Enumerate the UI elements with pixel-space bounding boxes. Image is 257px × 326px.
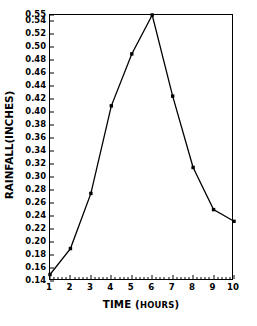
- x-axis-minor-tick: [197, 277, 198, 279]
- y-axis-tick-label: 0.24: [25, 211, 46, 219]
- y-axis-tick-label: 0.44: [25, 81, 46, 89]
- y-axis-tick-label: 0.34: [25, 146, 46, 154]
- x-axis-minor-tick: [176, 277, 177, 279]
- x-axis-tick-labels: 12345678910: [49, 283, 233, 297]
- y-axis-tick-label: 0.30: [25, 172, 46, 180]
- y-axis-tick-mark: [50, 203, 54, 204]
- series-line: [50, 15, 234, 275]
- y-axis-tick-label: 0.50: [25, 42, 46, 50]
- y-axis-tick-label: 0.32: [25, 159, 46, 167]
- x-axis-tick-label: 5: [128, 283, 134, 292]
- x-axis-minor-tick: [156, 277, 157, 279]
- data-point: [191, 166, 194, 169]
- x-axis-minor-tick: [82, 277, 83, 279]
- x-axis-tick-label: 7: [169, 283, 175, 292]
- plot-area: [49, 14, 233, 280]
- y-axis-tick-label: 0.14: [25, 276, 46, 284]
- x-axis-minor-tick: [189, 277, 190, 279]
- y-axis-tick-mark: [50, 60, 54, 61]
- x-axis-minor-tick: [164, 277, 165, 279]
- y-axis-tick-label: 0.16: [25, 263, 46, 271]
- x-axis-title-close: ): [174, 299, 179, 310]
- x-axis-tick-mark: [90, 275, 91, 279]
- y-axis-tick-mark: [50, 177, 54, 178]
- y-axis-tick-mark: [50, 86, 54, 87]
- y-axis-tick-label: 0.52: [25, 29, 46, 37]
- y-axis-tick-label: 0.36: [25, 133, 46, 141]
- x-axis-minor-tick: [99, 277, 100, 279]
- rainfall-line-chart: RAINFALL(INCHES) 0.140.160.180.200.220.2…: [0, 0, 257, 326]
- y-axis-tick-mark: [50, 229, 54, 230]
- y-axis-tick-mark: [50, 47, 54, 48]
- x-axis-minor-tick: [225, 277, 226, 279]
- y-axis-tick-label: 0.28: [25, 185, 46, 193]
- x-axis-minor-tick: [62, 277, 63, 279]
- x-axis-minor-tick: [86, 277, 87, 279]
- x-axis-minor-tick: [139, 277, 140, 279]
- x-axis-minor-tick: [66, 277, 67, 279]
- x-axis-title-unit: HOURS: [140, 300, 174, 310]
- x-axis-minor-tick: [123, 277, 124, 279]
- data-point: [130, 52, 133, 55]
- y-axis-tick-label: 0.18: [25, 250, 46, 258]
- x-axis-tick-mark: [234, 275, 235, 279]
- x-axis-minor-tick: [107, 277, 108, 279]
- y-axis-tick-mark: [50, 190, 54, 191]
- y-axis-tick-mark: [50, 216, 54, 217]
- data-series-rainfall: [50, 15, 234, 281]
- y-axis-tick-label: 0.38: [25, 120, 46, 128]
- y-axis-tick-labels: 0.140.160.180.200.220.240.260.280.300.32…: [16, 0, 48, 290]
- x-axis-tick-label: 9: [210, 283, 216, 292]
- x-axis-tick-mark: [50, 275, 51, 279]
- x-axis-minor-tick: [127, 277, 128, 279]
- series-markers: [48, 13, 235, 276]
- x-axis-tick-label: 3: [87, 283, 93, 292]
- x-axis-tick-label: 2: [66, 283, 72, 292]
- x-axis-tick-mark: [152, 275, 153, 279]
- x-axis-minor-tick: [168, 277, 169, 279]
- y-axis-title-text: RAINFALL(INCHES): [3, 91, 15, 199]
- x-axis-minor-tick: [217, 277, 218, 279]
- y-axis-tick-label: 0.22: [25, 224, 46, 232]
- y-axis-tick-mark: [50, 112, 54, 113]
- y-axis-tick-label: 0.26: [25, 198, 46, 206]
- x-axis-minor-tick: [119, 277, 120, 279]
- x-axis-minor-tick: [78, 277, 79, 279]
- x-axis-tick-label: 6: [148, 283, 154, 292]
- y-axis-tick-label: 0.20: [25, 237, 46, 245]
- y-axis-tick-label: 0.55: [25, 10, 46, 18]
- y-axis-tick-mark: [50, 151, 54, 152]
- x-axis-minor-tick: [221, 277, 222, 279]
- x-axis-tick-mark: [193, 275, 194, 279]
- data-point: [69, 247, 72, 250]
- y-axis-tick-mark: [50, 268, 54, 269]
- x-axis-minor-tick: [74, 277, 75, 279]
- y-axis-tick-label: 0.46: [25, 68, 46, 76]
- x-axis-tick-mark: [70, 275, 71, 279]
- y-axis-tick-mark: [50, 15, 54, 16]
- data-point: [89, 192, 92, 195]
- data-point: [232, 220, 235, 223]
- x-axis-tick-label: 8: [189, 283, 195, 292]
- x-axis-minor-tick: [103, 277, 104, 279]
- x-axis-tick-mark: [111, 275, 112, 279]
- y-axis-tick-mark: [50, 34, 54, 35]
- x-axis-tick-mark: [213, 275, 214, 279]
- x-axis-tick-mark: [172, 275, 173, 279]
- x-axis-minor-tick: [184, 277, 185, 279]
- y-axis-tick-mark: [50, 125, 54, 126]
- y-axis-tick-mark: [50, 21, 54, 22]
- data-point: [151, 13, 154, 16]
- y-axis-tick-mark: [50, 138, 54, 139]
- data-point: [110, 104, 113, 107]
- x-axis-minor-tick: [135, 277, 136, 279]
- x-axis-minor-tick: [58, 277, 59, 279]
- x-axis-minor-tick: [144, 277, 145, 279]
- y-axis-tick-mark: [50, 73, 54, 74]
- x-axis-tick-label: 10: [227, 283, 239, 292]
- y-axis-tick-label: 0.42: [25, 94, 46, 102]
- x-axis-minor-tick: [148, 277, 149, 279]
- x-axis-tick-label: 1: [46, 283, 52, 292]
- x-axis-minor-tick: [180, 277, 181, 279]
- x-axis-minor-tick: [94, 277, 95, 279]
